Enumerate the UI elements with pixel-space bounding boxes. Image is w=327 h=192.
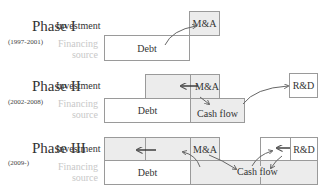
phase-3-rd-to-cashflow-arrow: [271, 156, 282, 168]
arrows-layer: [0, 0, 327, 192]
phase-2-ma-to-cashflow-arrow: [200, 97, 209, 104]
phase-2-cashflow-to-rd-arrow: [243, 86, 288, 104]
phase-3-cashflow-to-rd-investment-arrow: [252, 151, 272, 166]
phase-3-ma-to-cashflow-arrow: [209, 155, 236, 169]
phase-3-cashflow-to-investment-arrow: [183, 152, 200, 167]
phase-1-debt-to-ma-arrow: [165, 26, 196, 45]
